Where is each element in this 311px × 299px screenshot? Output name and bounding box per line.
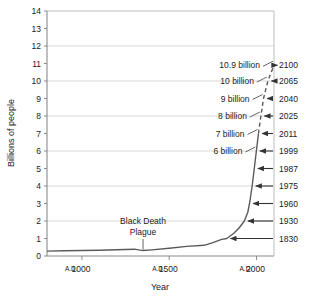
y-tick-label-8: 8 — [36, 111, 41, 121]
year-label-2065: 2065 — [279, 76, 298, 86]
y-tick-label-3: 3 — [36, 199, 41, 209]
y-tick-label-4: 4 — [36, 181, 41, 191]
x-tick-label-1500: 1500 — [159, 264, 178, 274]
billion-label-2011: 7 billion — [216, 129, 245, 139]
y-axis-title: Billions of people — [6, 99, 16, 167]
year-label-1830: 1830 — [279, 234, 298, 244]
x-axis-ticks: A.D.1000A.D.1500A.D.2000 — [65, 256, 265, 274]
y-tick-label-6: 6 — [36, 146, 41, 156]
y-tick-label-14: 14 — [32, 6, 42, 16]
black-death-label-line2: Plague — [130, 227, 157, 237]
year-label-1930: 1930 — [279, 216, 298, 226]
y-tick-label-11: 11 — [32, 59, 41, 69]
billion-label-2065: 10 billion — [220, 76, 254, 86]
y-tick-label-5: 5 — [36, 164, 41, 174]
year-label-2100: 2100 — [279, 60, 298, 70]
billion-label-2040: 9 billion — [221, 94, 250, 104]
year-label-2025: 2025 — [279, 111, 298, 121]
y-tick-label-7: 7 — [36, 129, 41, 139]
year-label-1960: 1960 — [279, 199, 298, 209]
x-tick-label-1000: 1000 — [71, 264, 90, 274]
billion-label-1999: 6 billion — [214, 146, 243, 156]
y-tick-label-12: 12 — [32, 41, 42, 51]
year-label-1999: 1999 — [279, 146, 298, 156]
year-label-2011: 2011 — [279, 129, 298, 139]
y-tick-label-10: 10 — [32, 76, 42, 86]
y-axis-ticks: 01234567891011121314 — [32, 6, 47, 261]
x-tick-label-2000: 2000 — [246, 264, 265, 274]
year-label-1987: 1987 — [279, 164, 298, 174]
x-axis-title: Year — [151, 282, 169, 292]
population-growth-chart: 01234567891011121314 A.D.1000A.D.1500A.D… — [0, 0, 311, 299]
billion-label-2025: 8 billion — [218, 111, 247, 121]
y-tick-label-9: 9 — [36, 94, 41, 104]
y-tick-label-13: 13 — [32, 24, 42, 34]
year-label-1975: 1975 — [279, 181, 298, 191]
billion-label-2100: 10.9 billion — [219, 60, 260, 70]
chart-canvas: 01234567891011121314 A.D.1000A.D.1500A.D… — [0, 0, 311, 299]
y-tick-label-1: 1 — [36, 234, 41, 244]
year-labels: 2100206520402025201119991987197519601930… — [279, 60, 298, 243]
year-label-2040: 2040 — [279, 94, 298, 104]
black-death-label-line1: Black Death — [120, 216, 166, 226]
y-tick-label-0: 0 — [36, 251, 41, 261]
y-tick-label-2: 2 — [36, 216, 41, 226]
